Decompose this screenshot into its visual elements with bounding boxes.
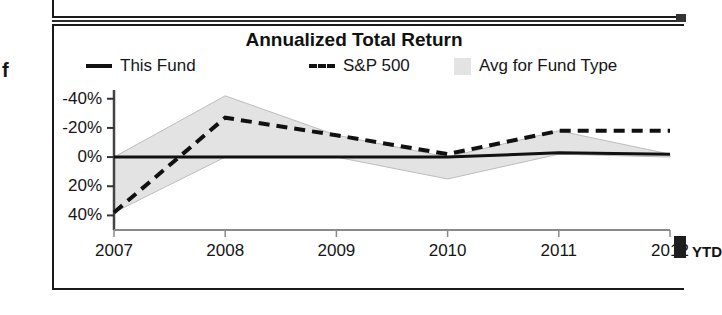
x-axis-tick-2007: 2007 <box>79 242 149 259</box>
legend-item-avg-fund-type: Avg for Fund Type <box>454 56 617 76</box>
legend-item-this-fund: This Fund <box>86 56 196 76</box>
legend-label-avg-fund-type: Avg for Fund Type <box>479 56 617 76</box>
stray-page-glyph: f <box>2 60 9 80</box>
filled-swatch-icon <box>454 58 471 75</box>
x-axis-tick-2010: 2010 <box>413 242 483 259</box>
x-axis-ytd-label: YTD <box>692 244 722 259</box>
chart-plot-svg <box>88 84 678 252</box>
legend-item-sp500: S&P 500 <box>309 56 410 76</box>
x-axis-tick-2009: 2009 <box>301 242 371 259</box>
scan-edge-artifact-bottom <box>674 236 686 258</box>
chart-legend: This Fund S&P 500 Avg for Fund Type <box>54 56 686 82</box>
dashed-line-icon <box>309 64 335 68</box>
chart-title: Annualized Total Return <box>54 29 654 51</box>
plot-area <box>88 84 678 252</box>
y-axis-tick-0: 0% <box>48 148 102 165</box>
y-axis-tick-neg40: -40% <box>48 90 102 107</box>
solid-line-icon <box>86 64 112 68</box>
legend-label-this-fund: This Fund <box>120 56 196 76</box>
y-axis-tick-20: 20% <box>48 177 102 194</box>
y-axis-tick-neg20: -20% <box>48 119 102 136</box>
legend-label-sp500: S&P 500 <box>343 56 410 76</box>
page-rule-divider <box>52 20 686 22</box>
x-axis-tick-2011: 2011 <box>524 242 594 259</box>
page-frame-above <box>52 0 686 18</box>
x-axis-tick-2008: 2008 <box>190 242 260 259</box>
chart-container: Annualized Total Return This Fund S&P 50… <box>52 24 684 290</box>
y-axis-tick-40: 40% <box>48 206 102 223</box>
scan-edge-artifact-top <box>676 14 686 22</box>
